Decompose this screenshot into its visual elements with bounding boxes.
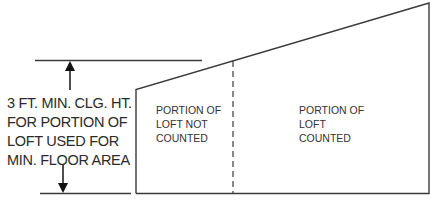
label-line: COUNTED bbox=[299, 131, 364, 145]
label-line: PORTION OF bbox=[299, 103, 364, 117]
loft-outline bbox=[136, 3, 429, 194]
label-line: LOFT USED FOR bbox=[7, 132, 132, 151]
label-line: MIN. FLOOR AREA bbox=[7, 151, 132, 170]
label-line: FOR PORTION OF bbox=[7, 113, 132, 132]
label-line: 3 FT. MIN. CLG. HT. bbox=[7, 94, 132, 113]
portion-counted-label: PORTION OF LOFT COUNTED bbox=[299, 103, 364, 145]
label-line: LOFT bbox=[299, 117, 364, 131]
min-ceiling-height-label: 3 FT. MIN. CLG. HT. FOR PORTION OF LOFT … bbox=[7, 94, 132, 170]
portion-not-counted-label: PORTION OF LOFT NOT COUNTED bbox=[156, 103, 221, 145]
label-line: LOFT NOT bbox=[156, 117, 221, 131]
label-line: COUNTED bbox=[156, 131, 221, 145]
label-line: PORTION OF bbox=[156, 103, 221, 117]
up-arrow-head-icon bbox=[65, 61, 75, 71]
down-arrow-head-icon bbox=[58, 183, 68, 193]
